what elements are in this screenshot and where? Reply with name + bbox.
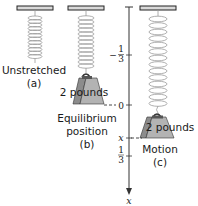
tick-x: x — [118, 132, 124, 143]
tick-neg-third: − 1 3 — [109, 44, 124, 64]
svg-text:1: 1 — [118, 145, 124, 155]
spring-c — [149, 10, 167, 119]
weight-label-b: 2 pounds — [60, 86, 109, 98]
svg-text:1: 1 — [118, 44, 124, 54]
svg-text:3: 3 — [118, 54, 124, 64]
ceiling-bar-c — [140, 6, 176, 10]
spring-diagram: − 1 3 0 x 1 3 x 2 pounds 2 pounds Unstre… — [0, 0, 198, 206]
spring-b — [78, 10, 94, 73]
caption-c-letter: (c) — [153, 156, 167, 168]
axis-label-x: x — [126, 195, 132, 206]
svg-text:−: − — [109, 50, 117, 60]
ceiling-bar-b — [68, 6, 104, 10]
svg-text:3: 3 — [118, 155, 124, 165]
caption-b-sub: position — [66, 125, 108, 137]
weight-label-c: 2 pounds — [146, 121, 195, 133]
ceiling-bar-a — [17, 6, 53, 10]
caption-b-letter: (b) — [80, 138, 95, 150]
caption-a-title: Unstretched — [2, 64, 66, 76]
caption-b-title: Equilibrium — [57, 112, 117, 124]
caption-a-letter: (a) — [27, 77, 42, 89]
tick-pos-third: 1 3 — [118, 145, 124, 165]
vertical-axis — [125, 7, 133, 195]
tick-zero: 0 — [118, 101, 124, 111]
caption-c-title: Motion — [142, 143, 178, 155]
spring-a — [28, 10, 42, 63]
